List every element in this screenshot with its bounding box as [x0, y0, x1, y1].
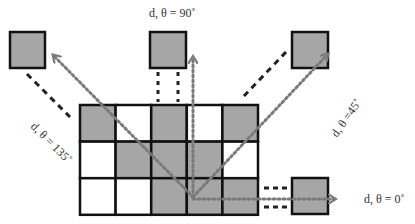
- label-135: d, θ = 135˚: [28, 119, 75, 166]
- neighbor-box-135: [10, 32, 45, 68]
- grid-cell-0-4: [222, 105, 258, 142]
- cooccurrence-diagram: d, θ = 90˚ d, θ = 135˚ d, θ =45˚ d, θ = …: [0, 0, 415, 224]
- grid-cell-1-0: [80, 142, 116, 179]
- grid-cell-1-1: [116, 142, 152, 179]
- neighbor-box-0: [292, 178, 328, 214]
- label-90: d, θ = 90˚: [149, 6, 196, 20]
- grid-cell-2-1: [116, 178, 152, 215]
- label-45: d, θ =45˚: [328, 96, 364, 140]
- neighbor-box-45: [292, 32, 328, 68]
- grid-cell-2-4: [222, 178, 258, 215]
- grid-cell-0-2: [151, 105, 187, 142]
- neighbor-box-90: [150, 32, 186, 68]
- grid-cell-2-0: [80, 178, 116, 215]
- grid-cell-0-0: [80, 105, 116, 142]
- label-0: d, θ = 0˚: [364, 192, 405, 206]
